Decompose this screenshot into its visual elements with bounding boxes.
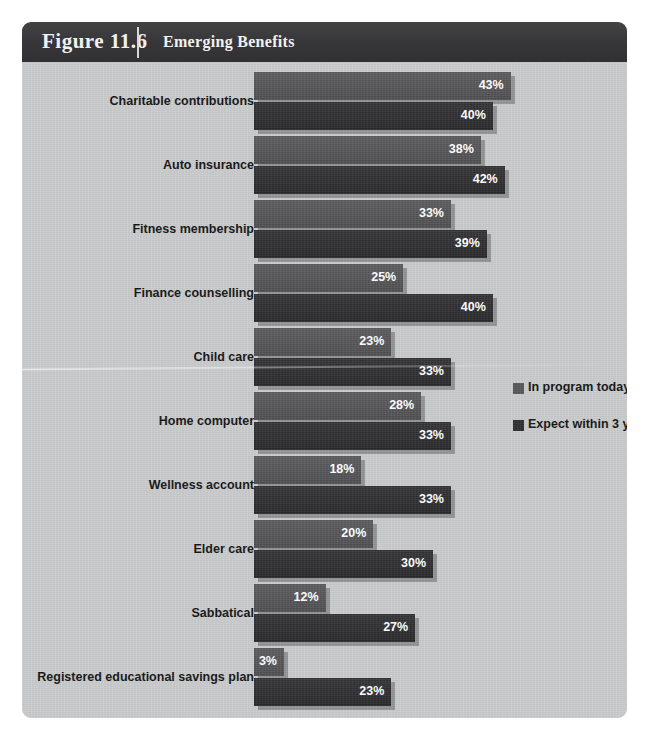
bar-expect-within-3-years[interactable]: 30% <box>254 550 433 578</box>
bar-expect-within-3-years[interactable]: 40% <box>254 102 493 130</box>
bar-wrapper: 33% <box>254 422 451 450</box>
bar-value-label: 43% <box>479 78 504 93</box>
bar-wrapper: 23% <box>254 328 391 356</box>
bar-value-label: 30% <box>401 556 426 571</box>
bar-value-label: 39% <box>455 236 480 251</box>
bar-wrapper: 23% <box>254 678 391 706</box>
category-label: Wellness account <box>22 479 254 492</box>
figure-number: Figure 11.6 <box>42 29 147 54</box>
bar-wrapper: 33% <box>254 358 451 386</box>
bar-wrapper: 39% <box>254 230 487 258</box>
bar-in-program-today[interactable]: 23% <box>254 328 391 356</box>
category-label: Child care <box>22 351 254 364</box>
category-label: Fitness membership <box>22 223 254 236</box>
bar-value-label: 38% <box>449 142 474 157</box>
bar-in-program-today[interactable]: 38% <box>254 136 481 164</box>
category-label: Registered educational savings plan <box>22 671 254 684</box>
category-group: Auto insurance38%42% <box>22 136 627 194</box>
bar-in-program-today[interactable]: 20% <box>254 520 373 548</box>
header-divider <box>137 27 139 58</box>
bar-value-label: 33% <box>419 492 444 507</box>
category-group: Child care23%33% <box>22 328 627 386</box>
bar-value-label: 12% <box>294 590 319 605</box>
bar-in-program-today[interactable]: 25% <box>254 264 403 292</box>
bar-wrapper: 43% <box>254 72 511 100</box>
bar-value-label: 25% <box>371 270 396 285</box>
bar-expect-within-3-years[interactable]: 42% <box>254 166 505 194</box>
bar-wrapper: 28% <box>254 392 421 420</box>
figure-header: Figure 11.6 Emerging Benefits <box>22 22 627 62</box>
bar-value-label: 27% <box>383 620 408 635</box>
figure-card: Figure 11.6 Emerging Benefits Charitable… <box>22 22 627 718</box>
category-group: Finance counselling25%40% <box>22 264 627 322</box>
bar-in-program-today[interactable]: 33% <box>254 200 451 228</box>
bar-wrapper: 33% <box>254 486 451 514</box>
category-label: Finance counselling <box>22 287 254 300</box>
bar-in-program-today[interactable]: 18% <box>254 456 361 484</box>
bar-wrapper: 33% <box>254 200 451 228</box>
category-label: Elder care <box>22 543 254 556</box>
category-group: Elder care20%30% <box>22 520 627 578</box>
bar-wrapper: 12% <box>254 584 326 612</box>
bar-value-label: 40% <box>461 108 486 123</box>
category-group: Registered educational savings plan3%23% <box>22 648 627 706</box>
bar-value-label: 3% <box>259 654 277 669</box>
bar-expect-within-3-years[interactable]: 33% <box>254 486 451 514</box>
bar-expect-within-3-years[interactable]: 27% <box>254 614 415 642</box>
bar-value-label: 18% <box>329 462 354 477</box>
bar-value-label: 28% <box>389 398 414 413</box>
bar-wrapper: 20% <box>254 520 373 548</box>
bar-in-program-today[interactable]: 12% <box>254 584 326 612</box>
legend-swatch-icon <box>513 383 524 394</box>
category-label: Auto insurance <box>22 159 254 172</box>
bar-in-program-today[interactable]: 43% <box>254 72 511 100</box>
legend-label: Expect within 3 years <box>528 417 627 432</box>
category-label: Home computer <box>22 415 254 428</box>
category-group: Charitable contributions43%40% <box>22 72 627 130</box>
category-group: Sabbatical12%27% <box>22 584 627 642</box>
bar-expect-within-3-years[interactable]: 23% <box>254 678 391 706</box>
bar-wrapper: 3% <box>254 648 284 676</box>
chart-panel: Charitable contributions43%40%Auto insur… <box>22 62 627 718</box>
bar-wrapper: 38% <box>254 136 481 164</box>
bar-wrapper: 27% <box>254 614 415 642</box>
figure-title: Emerging Benefits <box>163 33 295 51</box>
bar-wrapper: 18% <box>254 456 361 484</box>
legend-label: In program today <box>528 380 627 395</box>
bar-wrapper: 40% <box>254 294 493 322</box>
legend-swatch-icon <box>513 420 524 431</box>
bar-wrapper: 25% <box>254 264 403 292</box>
bar-expect-within-3-years[interactable]: 39% <box>254 230 487 258</box>
bar-expect-within-3-years[interactable]: 33% <box>254 422 451 450</box>
bar-value-label: 23% <box>359 684 384 699</box>
category-label: Sabbatical <box>22 607 254 620</box>
bar-value-label: 20% <box>341 526 366 541</box>
bar-value-label: 33% <box>419 364 444 379</box>
bar-wrapper: 42% <box>254 166 505 194</box>
bar-expect-within-3-years[interactable]: 40% <box>254 294 493 322</box>
bar-value-label: 33% <box>419 206 444 221</box>
bar-value-label: 33% <box>419 428 444 443</box>
category-group: Wellness account18%33% <box>22 456 627 514</box>
bar-in-program-today[interactable]: 3% <box>254 648 284 676</box>
bar-value-label: 42% <box>473 172 498 187</box>
bar-in-program-today[interactable]: 28% <box>254 392 421 420</box>
bar-value-label: 23% <box>359 334 384 349</box>
category-label: Charitable contributions <box>22 95 254 108</box>
category-group: Fitness membership33%39% <box>22 200 627 258</box>
bar-expect-within-3-years[interactable]: 33% <box>254 358 451 386</box>
bar-wrapper: 40% <box>254 102 493 130</box>
bar-value-label: 40% <box>461 300 486 315</box>
bar-wrapper: 30% <box>254 550 433 578</box>
